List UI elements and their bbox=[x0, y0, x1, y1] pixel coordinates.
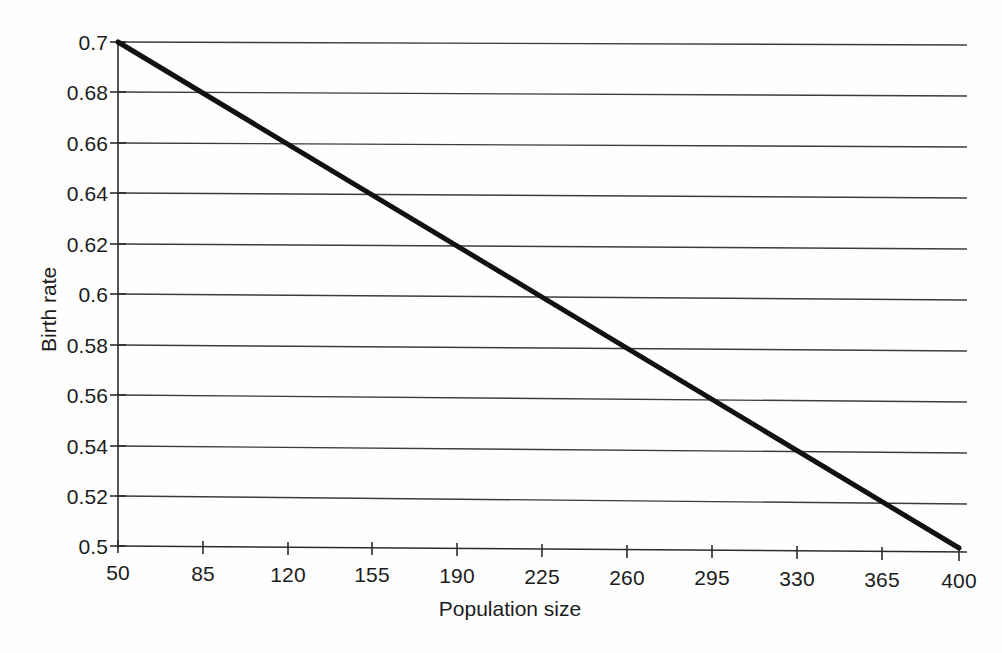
x-tick-label: 400 bbox=[919, 570, 999, 591]
y-axis-title: Birth rate bbox=[38, 267, 59, 352]
x-tick-label: 120 bbox=[248, 564, 328, 585]
y-tick-label: 0.62 bbox=[28, 234, 108, 255]
y-tick-label: 0.7 bbox=[28, 32, 108, 53]
x-tick-label: 155 bbox=[332, 564, 412, 585]
chart-plot-area bbox=[0, 0, 1002, 653]
x-axis-title: Population size bbox=[400, 598, 620, 619]
x-tick-label: 330 bbox=[757, 568, 837, 589]
y-tick-label: 0.5 bbox=[28, 536, 108, 557]
x-tick-label: 260 bbox=[587, 567, 667, 588]
y-tick-label: 0.66 bbox=[28, 133, 108, 154]
y-tick-label: 0.64 bbox=[28, 183, 108, 204]
x-tick-label: 295 bbox=[672, 567, 752, 588]
x-tick-label: 365 bbox=[842, 569, 922, 590]
chart-figure: 0.7 0.68 0.66 0.64 0.62 0.6 0.58 0.56 0.… bbox=[0, 0, 1002, 653]
y-tick-label: 0.54 bbox=[28, 436, 108, 457]
x-tick-label: 225 bbox=[502, 566, 582, 587]
y-tick-label: 0.68 bbox=[28, 82, 108, 103]
y-tick-label: 0.52 bbox=[28, 486, 108, 507]
gridlines-horizontal bbox=[118, 42, 967, 504]
x-tick-label: 190 bbox=[417, 565, 497, 586]
x-tick-label: 85 bbox=[163, 563, 243, 584]
y-tick-label: 0.56 bbox=[28, 385, 108, 406]
x-tick-label: 50 bbox=[78, 562, 158, 583]
